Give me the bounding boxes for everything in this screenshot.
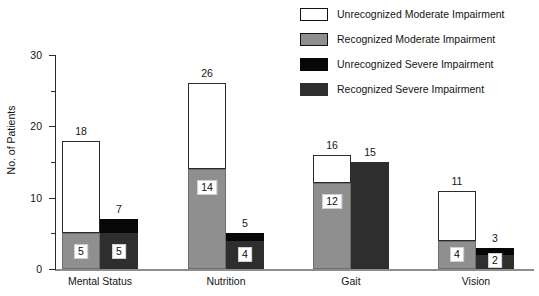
bar-mental-status-severe[interactable]: 5 7 — [100, 219, 138, 269]
y-tick-labels: 30 20 10 0 — [16, 0, 42, 296]
bar-vision-severe[interactable]: 2 3 — [476, 248, 514, 269]
bar-nutrition-severe[interactable]: 4 5 — [226, 233, 264, 269]
bar-mental-status-moderate[interactable]: 5 18 — [62, 141, 100, 269]
segment-recognized-moderate: 12 — [313, 183, 351, 269]
y-tick-15 — [51, 162, 56, 163]
y-tick-10 — [49, 198, 56, 199]
segment-unrecognized-moderate — [313, 155, 351, 183]
category-label-mental-status: Mental Status — [30, 276, 170, 287]
y-tick-label-20: 20 — [16, 121, 42, 132]
segment-value-label: 5 — [74, 244, 88, 260]
y-tick-5 — [51, 233, 56, 234]
bar-total-label: 7 — [100, 204, 138, 215]
y-tick-20 — [49, 126, 56, 127]
bar-total-label: 26 — [188, 68, 226, 79]
y-axis-title: No. of Patients — [5, 85, 17, 195]
bar-vision-moderate[interactable]: 4 11 — [438, 191, 476, 269]
bar-group-mental-status: 5 18 5 7 — [62, 54, 138, 269]
category-label-nutrition: Nutrition — [156, 276, 296, 287]
bar-total-label: 5 — [226, 218, 264, 229]
segment-value-label: 4 — [450, 247, 464, 263]
segment-value-label: 4 — [238, 247, 252, 263]
bar-group-gait: 12 16 15 — [313, 54, 389, 269]
segment-value-label: 12 — [322, 194, 342, 210]
chart-figure: Unrecognized Moderate Impairment Recogni… — [0, 0, 539, 296]
segment-recognized-moderate: 4 — [438, 241, 476, 269]
category-label-gait: Gait — [281, 276, 421, 287]
category-label-vision: Vision — [406, 276, 539, 287]
segment-value-label: 2 — [488, 253, 502, 269]
bar-total-label: 16 — [313, 140, 351, 151]
bar-gait-moderate[interactable]: 12 16 — [313, 155, 351, 269]
y-tick-label-0: 0 — [16, 264, 42, 275]
bar-total-label: 11 — [438, 176, 476, 187]
segment-recognized-moderate: 14 — [188, 169, 226, 269]
y-tick-30 — [49, 55, 56, 56]
bar-total-label: 18 — [62, 126, 100, 137]
bar-group-nutrition: 14 26 4 5 — [188, 54, 264, 269]
bar-total-label: 15 — [351, 147, 389, 158]
segment-unrecognized-moderate — [62, 141, 100, 233]
y-tick-25 — [51, 91, 56, 92]
segment-recognized-severe: 4 — [226, 241, 264, 269]
segment-recognized-severe: 5 — [100, 233, 138, 269]
x-axis-baseline — [55, 269, 534, 271]
segment-recognized-moderate: 5 — [62, 233, 100, 269]
segment-unrecognized-severe — [226, 233, 264, 241]
y-tick-0 — [49, 269, 56, 270]
plot-area: 30 20 10 0 No. of Patients 5 18 5 7 — [0, 0, 539, 296]
segment-unrecognized-moderate — [438, 191, 476, 241]
bar-gait-severe[interactable]: 15 — [351, 162, 389, 269]
bar-group-vision: 4 11 2 3 — [438, 54, 514, 269]
segment-unrecognized-severe — [100, 219, 138, 233]
y-tick-label-30: 30 — [16, 50, 42, 61]
segment-value-label: 5 — [112, 244, 126, 260]
y-tick-label-10: 10 — [16, 193, 42, 204]
segment-recognized-severe: 2 — [476, 255, 514, 269]
segment-value-label: 14 — [197, 180, 217, 196]
bar-nutrition-moderate[interactable]: 14 26 — [188, 83, 226, 269]
segment-unrecognized-moderate — [188, 83, 226, 169]
segment-recognized-severe — [351, 162, 389, 269]
bar-total-label: 3 — [476, 233, 514, 244]
